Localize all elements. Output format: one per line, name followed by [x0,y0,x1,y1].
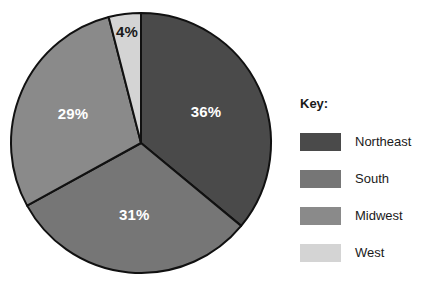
legend-label-south: South [355,171,389,186]
legend-item-south[interactable]: South [296,160,444,197]
legend-item-west[interactable]: West [296,234,444,271]
legend-item-northeast[interactable]: Northeast [296,123,444,160]
legend-label-west: West [355,245,384,260]
pie-slice-value-northeast: 36% [191,103,222,120]
pie-chart-figure: 36%31%29%4% Key: NortheastSouthMidwestWe… [0,0,444,291]
legend-label-northeast: Northeast [355,134,411,149]
pie-slice-value-midwest: 29% [58,105,89,122]
legend-title: Key: [300,96,444,111]
pie-slice-value-south: 31% [119,206,150,223]
legend-label-midwest: Midwest [355,208,403,223]
pie-slice-group [11,13,271,273]
legend-swatch-northeast [300,133,341,151]
chart-legend: Key: NortheastSouthMidwestWest [296,96,444,271]
legend-list: NortheastSouthMidwestWest [296,123,444,271]
pie-chart-svg: 36%31%29%4% [0,0,290,291]
legend-swatch-midwest [300,207,341,225]
pie-slice-value-west: 4% [116,23,138,40]
legend-swatch-west [300,244,341,262]
legend-swatch-south [300,170,341,188]
legend-item-midwest[interactable]: Midwest [296,197,444,234]
pie-chart-plot-area: 36%31%29%4% [0,0,290,291]
